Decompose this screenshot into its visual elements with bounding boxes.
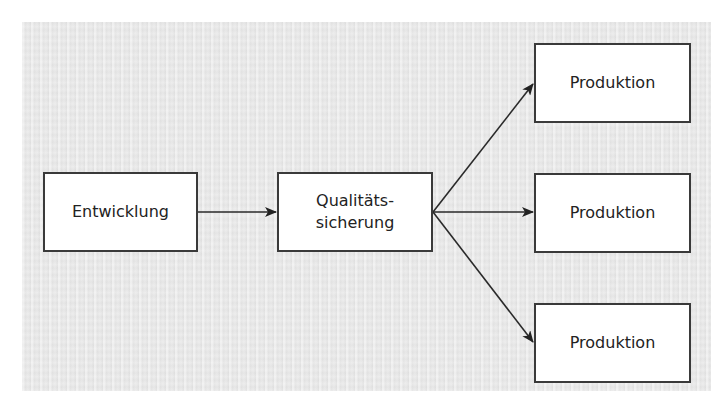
node-produktion-middle: Produktion (534, 173, 691, 253)
node-entwicklung: Entwicklung (43, 172, 198, 252)
node-qualitaetssicherung: Qualitäts- sicherung (277, 172, 433, 252)
node-produktion-top: Produktion (534, 43, 691, 123)
node-label: Produktion (570, 72, 656, 94)
node-label: Produktion (570, 202, 656, 224)
node-label: Entwicklung (72, 201, 169, 223)
node-label-line2: sicherung (316, 212, 395, 234)
node-produktion-bottom: Produktion (534, 303, 691, 383)
node-label: Produktion (570, 332, 656, 354)
node-label-line1: Qualitäts- (316, 190, 394, 212)
